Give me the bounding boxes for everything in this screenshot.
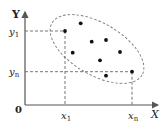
data-point — [104, 74, 108, 78]
data-point — [71, 51, 75, 55]
tick-xn: xn — [128, 110, 139, 123]
data-points — [63, 21, 134, 77]
scatter-diagram: Y 0 X y1 yn x1 xn — [0, 0, 168, 127]
data-point — [118, 50, 122, 54]
data-point — [79, 21, 83, 25]
x-axis-label: X — [150, 108, 160, 121]
y-axis-label: Y — [11, 8, 20, 21]
confidence-ellipse — [39, 0, 155, 97]
data-point — [90, 40, 94, 44]
data-point — [130, 70, 134, 74]
data-point — [104, 38, 108, 42]
tick-x1: x1 — [61, 110, 71, 123]
data-point — [63, 29, 67, 33]
origin-label: 0 — [15, 104, 22, 115]
tick-yn: yn — [8, 66, 20, 79]
tick-y1: y1 — [8, 26, 19, 39]
data-point — [98, 58, 102, 62]
